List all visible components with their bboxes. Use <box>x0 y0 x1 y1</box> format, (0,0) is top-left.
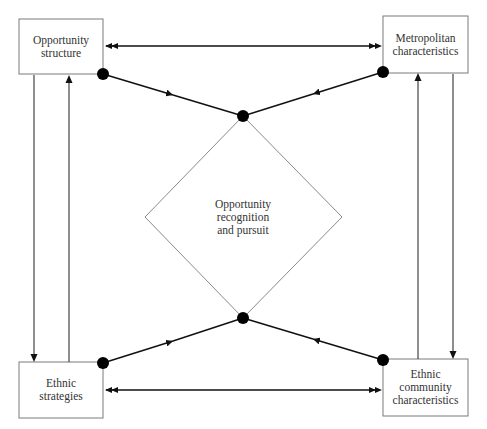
edge-ethnic-community-to-center <box>243 318 383 360</box>
edge-left-up <box>66 75 73 362</box>
edge-top-horizontal <box>105 43 382 49</box>
edge-opportunity-structure-to-center <box>103 74 243 116</box>
edge-ethnic-strategies-to-center <box>103 318 243 363</box>
edge-metropolitan-to-center <box>243 72 383 116</box>
edge-bottom-horizontal <box>105 387 382 393</box>
label-metropolitan-characteristics: Metropolitan characteristics <box>383 16 468 73</box>
junction-dot-icon <box>237 110 249 122</box>
edge-right-down <box>450 74 457 359</box>
label-ethnic-community-characteristics: Ethnic community characteristics <box>383 359 468 416</box>
edge-right-up <box>415 73 422 359</box>
arrowhead-right-icon <box>369 387 382 393</box>
arrowhead-right-icon <box>369 43 382 49</box>
junction-dot-icon <box>237 312 249 324</box>
arrowhead-up-icon <box>66 75 73 83</box>
arrowhead-left-icon <box>105 43 118 49</box>
label-ethnic-strategies: Ethnic strategies <box>19 362 103 418</box>
edge-left-down <box>31 75 38 362</box>
arrowhead-down-icon <box>450 351 457 359</box>
arrowhead-left-icon <box>105 387 118 393</box>
label-opportunity-recognition: Opportunity recognition and pursuit <box>193 187 293 247</box>
arrowhead-up-icon <box>415 73 422 81</box>
label-opportunity-structure: Opportunity structure <box>19 19 103 74</box>
arrowhead-down-icon <box>31 354 38 362</box>
